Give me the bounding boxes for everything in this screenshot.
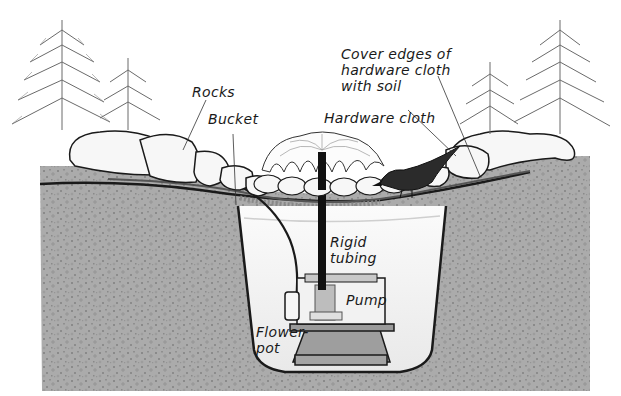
fountain-diagram: Rocks Bucket Cover edges of hardware clo… [0,0,621,396]
label-flower-pot: Flower- pot [256,324,309,356]
shrub-left [12,20,160,130]
diagram-illustration [0,0,621,396]
label-bucket: Bucket [208,111,258,127]
label-cover-edges: Cover edges of hardware cloth with soil [341,46,451,94]
shrub-right [460,20,610,134]
label-rigid-tubing: Rigid tubing [330,234,377,266]
label-hardware-cloth: Hardware cloth [324,110,435,126]
label-pump: Pump [346,292,387,308]
label-rocks: Rocks [192,84,235,100]
